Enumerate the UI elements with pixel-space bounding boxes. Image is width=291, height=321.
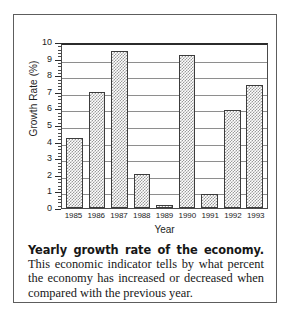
x-tick-label: 1991: [199, 211, 222, 220]
figure-caption: Yearly growth rate of the economy. This …: [28, 243, 264, 300]
bar-slot: [153, 45, 176, 208]
bar-slot: [198, 45, 221, 208]
y-tick-label: 9: [22, 54, 52, 64]
x-tick-label: 1988: [130, 211, 153, 220]
x-tick-label: 1986: [85, 211, 108, 220]
x-tick-label: 1985: [62, 211, 85, 220]
y-tick-label: 2: [22, 170, 52, 180]
x-axis-tick-labels: 198519861987198819891990199119921993: [61, 211, 268, 220]
figure-card: Growth Rate (%) 109876543210 19851986198…: [13, 14, 277, 303]
bar-slot: [244, 45, 267, 208]
y-tick-mark: [55, 209, 61, 210]
x-tick-label: 1992: [221, 211, 244, 220]
caption-lead: Yearly growth rate of the economy.: [28, 243, 264, 257]
x-tick-label: 1990: [176, 211, 199, 220]
bar-1991: [201, 194, 218, 208]
bar-slot: [108, 45, 131, 208]
x-axis-title: Year: [61, 224, 268, 235]
y-tick-label: 5: [22, 120, 52, 130]
y-tick-label: 8: [22, 70, 52, 80]
bar-1993: [246, 85, 263, 208]
y-tick-label: 10: [22, 37, 52, 47]
x-tick-label: 1993: [244, 211, 267, 220]
bar-1985: [66, 138, 83, 208]
bar-chart: Growth Rate (%) 109876543210 19851986198…: [14, 19, 278, 241]
plot-area: [61, 43, 268, 209]
bar-1990: [179, 55, 196, 208]
y-tick-label: 3: [22, 153, 52, 163]
y-tick-label: 6: [22, 103, 52, 113]
bar-1987: [111, 51, 128, 208]
caption-body: This economic indicator tells by what pe…: [28, 257, 264, 299]
x-tick-label: 1987: [108, 211, 131, 220]
bar-slot: [221, 45, 244, 208]
y-tick-label: 1: [22, 186, 52, 196]
bar-slot: [131, 45, 154, 208]
bar-1989: [156, 205, 173, 208]
y-tick-label: 7: [22, 87, 52, 97]
y-axis-ticks: 109876543210: [14, 43, 61, 209]
bar-slot: [63, 45, 86, 208]
y-tick-label: 4: [22, 137, 52, 147]
bar-slot: [176, 45, 199, 208]
bar-slot: [86, 45, 109, 208]
y-tick-label: 0: [22, 203, 52, 213]
bar-1992: [224, 110, 241, 208]
bars-layer: [62, 45, 267, 208]
bar-1988: [134, 174, 151, 208]
x-tick-label: 1989: [153, 211, 176, 220]
bar-1986: [89, 92, 106, 208]
